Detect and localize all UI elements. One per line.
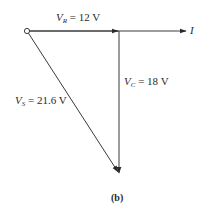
current-symbol: I [190,24,194,36]
current-label: I [190,25,194,36]
vr-value: = 12 V [67,11,100,23]
vc-symbol: V [124,75,131,87]
vc-value: = 18 V [135,75,168,87]
figure-caption: (b) [111,193,123,203]
vs-value: = 21.6 V [25,94,66,106]
vs-symbol: V [15,94,22,106]
phasor-diagram-canvas [0,0,207,216]
phasor-diagram: VR = 12 V I VC = 18 V VS = 21.6 V (b) [0,0,207,216]
vc-label: VC = 18 V [124,76,169,89]
origin-node-icon [24,28,29,33]
vr-symbol: V [56,11,63,23]
vs-label: VS = 21.6 V [15,95,67,108]
vr-label: VR = 12 V [56,12,100,25]
